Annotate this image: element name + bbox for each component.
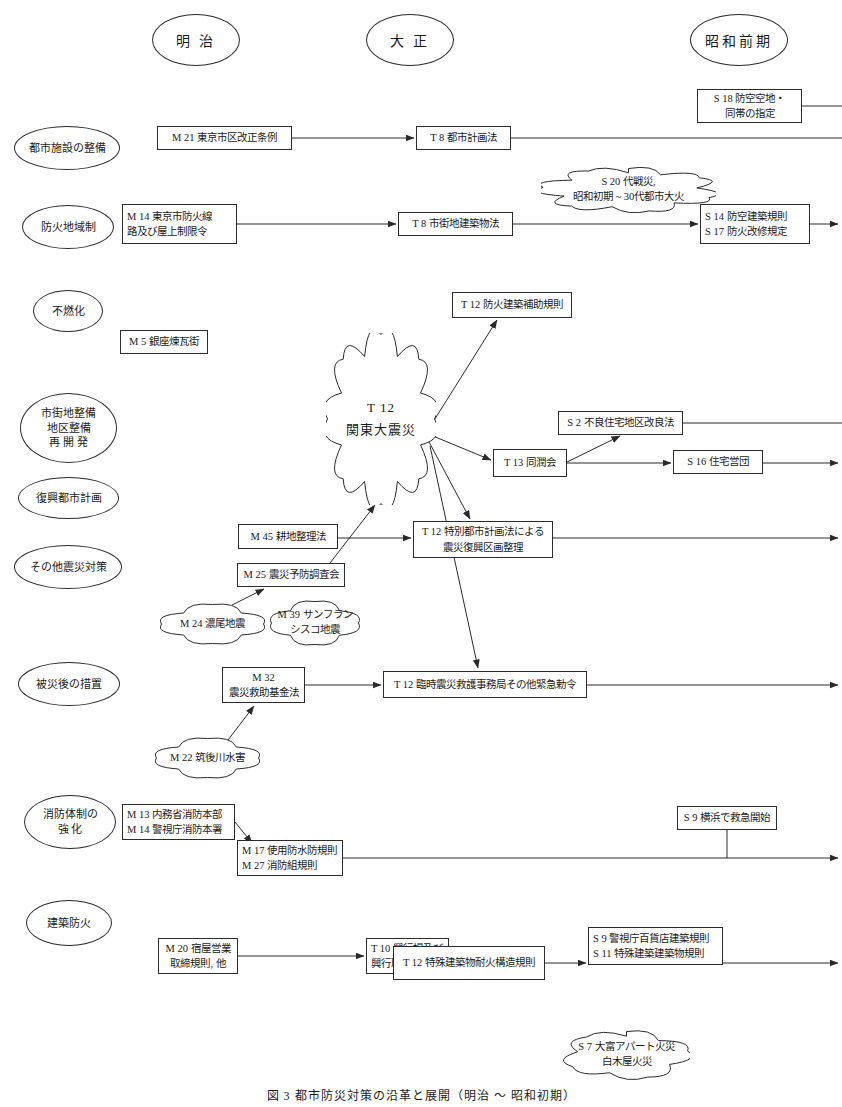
event-box-line: M 32: [252, 670, 274, 685]
disaster-cloud-m24-nobi-quake: M 24 濃尾地震: [160, 603, 265, 645]
cloud-text-line: S 20 代戦災,: [573, 175, 684, 190]
event-box-m45-land-rearrangement: M 45 耕地整理法: [238, 524, 338, 549]
cloud-text: M 22 筑後川水害: [170, 751, 245, 766]
category-label-line: その他震災対策: [30, 560, 107, 575]
category-label-line: 市街地整備: [41, 406, 96, 421]
event-box-s14-s17-fireproof-rules: S 14 防空建築規則S 17 防火改修規定: [700, 204, 810, 244]
event-box-line: 震災救助基金法: [229, 685, 299, 700]
cloud-text: T 12関東大震災: [346, 397, 416, 441]
event-box-line: T 8 都市計画法: [430, 130, 497, 145]
event-box-t13-dojunkai: T 13 同潤会: [493, 449, 567, 477]
event-box-m20-inn-business-rules: M 20 宿屋営業取締規則, 他: [158, 938, 238, 974]
cloud-text: M 39 サンフランシスコ地震: [277, 608, 352, 637]
event-box-line: M 5 銀座煉瓦街: [129, 334, 199, 349]
event-box-line: T 12 特別都市計画法による: [422, 524, 544, 539]
category-label-recovery-plan: 復興都市計画: [18, 477, 119, 519]
category-label-line: 建築防火: [47, 916, 91, 931]
event-box-line: S 9 横浜で救急開始: [684, 810, 770, 825]
category-label-post-disaster: 被災後の措置: [18, 662, 120, 706]
event-box-m5-ginza-brick-town: M 5 銀座煉瓦街: [120, 330, 208, 354]
disaster-cloud-s7-otomi-apartment-fire: S 7 大富アパート火災白木屋火災: [563, 1030, 690, 1080]
cloud-text-line: 関東大震災: [346, 419, 416, 441]
category-label-line: 不燃化: [52, 304, 85, 319]
cloud-text-line: 白木屋火災: [578, 1055, 674, 1070]
event-box-t8-city-planning-act: T 8 都市計画法: [416, 126, 511, 150]
category-label-line: 被災後の措置: [36, 677, 102, 692]
category-label-urban-facilities: 都市施設の整備: [14, 126, 120, 170]
cloud-text: M 24 濃尾地震: [180, 617, 245, 632]
disaster-cloud-m39-sanfrancisco-quake: M 39 サンフランシスコ地震: [270, 600, 360, 646]
event-box-line: M 45 耕地整理法: [250, 529, 325, 544]
event-box-s9-yokohama-ambulance: S 9 横浜で救急開始: [677, 806, 777, 830]
event-box-line: M 20 宿屋営業: [165, 941, 230, 956]
event-box-line: S 18 防空空地・: [714, 91, 786, 106]
cloud-text-line: シスコ地震: [277, 623, 352, 638]
category-label-line: 再 開 発: [49, 435, 88, 450]
event-box-t12-emergency-relief-office: T 12 臨時震災救護事務局その他緊急勅令: [383, 671, 587, 698]
event-box-m17-m27-fire-rules: M 17 使用防水防規則M 27 消防組規則: [237, 840, 343, 876]
event-box-line: 取締規則, 他: [170, 956, 225, 971]
event-box-s18-air-defense-open-space: S 18 防空空地・同帯の指定: [697, 89, 802, 123]
event-box-t12-special-city-planning: T 12 特別都市計画法による震災復興区画整理: [413, 521, 553, 558]
diagram-canvas: 明 治大 正昭和前期 都市施設の整備防火地域制不燃化市街地整備地区整備再 開 発…: [0, 0, 842, 1107]
event-box-line: T 8 市街地建築物法: [412, 216, 499, 231]
era-header-label: 明 治: [176, 30, 217, 50]
event-box-line: 同帯の指定: [725, 106, 775, 121]
event-box-line: M 21 東京市区改正条例: [172, 130, 277, 145]
event-box-line: M 27 消防組規則: [242, 858, 317, 873]
event-box-s2-poor-housing-improve: S 2 不良住宅地区改良法: [558, 411, 683, 435]
event-box-line: 路及び屋上制限令: [127, 224, 207, 239]
event-box-line: M 14 警視庁消防本署: [127, 822, 222, 837]
event-box-line: T 12 防火建築補助規則: [461, 297, 563, 312]
event-box-line: T 12 臨時震災救護事務局その他緊急勅令: [394, 677, 576, 692]
event-box-t8-urban-building-act: T 8 市街地建築物法: [398, 212, 513, 236]
connector-m22-to-m32: [228, 706, 254, 740]
event-box-line: 震災復興区画整理: [443, 540, 523, 555]
event-box-line: S 16 住宅営団: [687, 454, 749, 469]
disaster-cloud-s20-war-damage: S 20 代戦災,昭和初期 ~ 30代都市大火: [541, 167, 716, 213]
figure-caption: 図 3 都市防災対策の沿革と展開（明治 ～ 昭和初期）: [0, 1086, 842, 1104]
era-header-label: 大 正: [390, 30, 431, 50]
connector-t13-to-s2-poor-housing: [567, 436, 620, 462]
cloud-text-line: M 22 筑後川水害: [170, 751, 245, 766]
event-box-line: S 11 特殊建築建築物規則: [593, 946, 704, 961]
category-label-line: 復興都市計画: [36, 491, 102, 506]
event-box-t12-special-building-fire: T 12 特殊建築物耐火構造規則: [393, 946, 545, 980]
event-box-line: S 17 防火改修規定: [705, 224, 787, 239]
disaster-cloud-t12-great-kanto-quake: T 12関東大震災: [326, 333, 436, 505]
cloud-text-line: M 39 サンフラン: [277, 608, 352, 623]
cloud-text-line: M 24 濃尾地震: [180, 617, 245, 632]
category-label-line: 強 化: [58, 822, 83, 837]
event-box-line: M 13 内務省消防本部: [127, 807, 222, 822]
cloud-text: S 7 大富アパート火災白木屋火災: [578, 1040, 674, 1069]
event-box-s9-s11-building-rules: S 9 警視庁百貨店建築規則S 11 特殊建築建築物規則: [588, 927, 723, 965]
connector-kanto-to-t12-subsidy: [428, 320, 497, 430]
era-header-label: 昭和前期: [705, 30, 773, 50]
event-box-line: T 13 同潤会: [504, 455, 556, 470]
event-box-s16-housing-corp: S 16 住宅営団: [673, 450, 763, 474]
event-box-line: S 14 防空建築規則: [705, 209, 787, 224]
event-box-m25-quake-prevention-comm: M 25 震災予防調査会: [237, 563, 345, 587]
category-label-noncombustible: 不燃化: [33, 290, 103, 332]
era-header-meiji: 明 治: [152, 14, 240, 66]
cloud-text-line: T 12: [346, 397, 416, 419]
category-label-area-improvement: 市街地整備地区整備再 開 発: [20, 393, 117, 463]
category-label-line: 防火地域制: [41, 220, 96, 235]
event-box-line: S 2 不良住宅地区改良法: [567, 415, 673, 430]
event-box-t12-fireproof-subsidy: T 12 防火建築補助規則: [452, 292, 572, 318]
category-label-firefighting: 消防体制の強 化: [24, 795, 116, 849]
era-header-taisho: 大 正: [366, 14, 454, 66]
event-box-line: M 14 東京市防火線: [127, 209, 212, 224]
event-box-m13-m14-fire-hq: M 13 内務省消防本部M 14 警視庁消防本署: [122, 804, 235, 840]
disaster-cloud-m22-chikugo-flood: M 22 筑後川水害: [155, 737, 260, 779]
category-label-line: 地区整備: [47, 421, 91, 436]
event-box-m14-fireproof-line: M 14 東京市防火線路及び屋上制限令: [122, 204, 237, 244]
category-label-fire-zone: 防火地域制: [22, 205, 114, 249]
event-box-m21-tokyo-ward-revision: M 21 東京市区改正条例: [157, 126, 292, 150]
event-box-m32-quake-relief-fund: M 32震災救助基金法: [222, 667, 305, 703]
era-header-showa: 昭和前期: [690, 14, 788, 66]
category-label-line: 消防体制の: [43, 807, 98, 822]
event-box-line: M 17 使用防水防規則: [242, 843, 337, 858]
cloud-text-line: S 7 大富アパート火災: [578, 1040, 674, 1055]
category-label-other-quake: その他震災対策: [14, 545, 122, 589]
